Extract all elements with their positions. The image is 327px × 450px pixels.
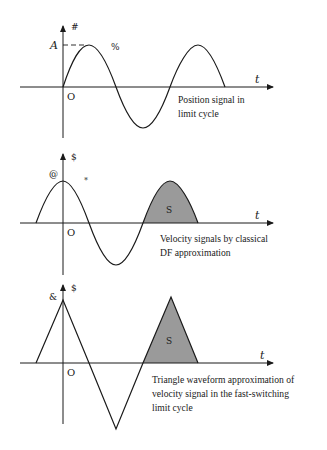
shaded-area-label: S bbox=[166, 336, 172, 346]
amplitude-label: A bbox=[49, 39, 58, 52]
origin-label: O bbox=[67, 91, 75, 102]
y-axis-label: $ bbox=[71, 283, 77, 293]
origin-label: O bbox=[67, 227, 75, 238]
caption-line: Triangle waveform approximation of bbox=[152, 374, 295, 385]
caption-line: Velocity signals by classical bbox=[160, 233, 268, 244]
x-axis-label: t bbox=[260, 349, 265, 362]
caption-line: limit cycle bbox=[152, 402, 193, 413]
x-axis-label: t bbox=[255, 209, 260, 222]
panel-position: # A % t O Position signal in limit cycle bbox=[20, 22, 273, 138]
panel-velocity-triangle: $ & S t O Triangle waveform approximatio… bbox=[20, 283, 295, 429]
y-axis-label: $ bbox=[71, 152, 77, 162]
shaded-area-label: S bbox=[166, 205, 172, 215]
panel-velocity-df: $ @ * S t O Velocity signals by classica… bbox=[20, 152, 273, 275]
marker-label: * bbox=[84, 176, 88, 185]
amplitude-label: & bbox=[49, 292, 57, 302]
caption-line: DF approximation bbox=[160, 247, 231, 258]
x-axis-label: t bbox=[255, 73, 260, 86]
shaded-area bbox=[143, 297, 198, 363]
diagram-svg: # A % t O Position signal in limit cycle… bbox=[0, 0, 327, 450]
amplitude-label: @ bbox=[49, 169, 58, 179]
diagram-canvas: # A % t O Position signal in limit cycle… bbox=[0, 0, 327, 450]
caption-line: limit cycle bbox=[178, 108, 219, 119]
y-axis-label: # bbox=[71, 22, 79, 32]
caption-line: Position signal in bbox=[178, 94, 245, 105]
marker-label: % bbox=[111, 42, 120, 52]
caption-line: velocity signal in the fast-switching bbox=[152, 388, 289, 399]
origin-label: O bbox=[67, 367, 75, 378]
